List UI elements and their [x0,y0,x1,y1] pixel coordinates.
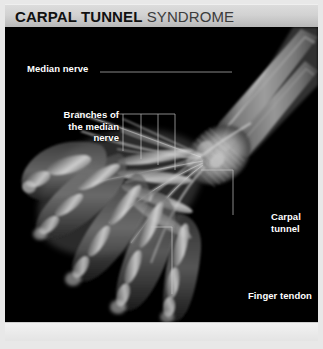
figure-title-bar: CARPAL TUNNEL SYNDROME [5,4,318,27]
label-branches-of-median-nerve: Branches of the median nerve [23,109,119,144]
figure-frame: CARPAL TUNNEL SYNDROME [0,0,323,349]
label-carpal-tunnel: Carpal tunnel [271,211,301,234]
figure-footer-bar [5,322,318,341]
page-title: CARPAL TUNNEL SYNDROME [5,9,234,24]
label-finger-tendon: Finger tendon [248,290,312,302]
title-light-part: SYNDROME [142,8,234,25]
label-median-nerve: Median nerve [27,63,88,75]
illustration-panel: Median nerve Branches of the median nerv… [5,27,318,322]
title-bold-part: CARPAL TUNNEL [15,8,142,25]
